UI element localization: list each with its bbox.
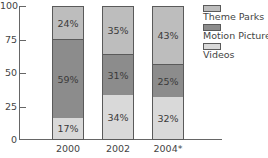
x-tick-label: 2004* <box>148 143 188 154</box>
bar-2004: 43% 25% 32% <box>152 6 184 140</box>
segment-theme-parks: 24% <box>53 7 83 39</box>
segment-videos: 34% <box>103 95 133 139</box>
y-tick-label: 0 <box>0 135 17 145</box>
legend-label: Videos <box>203 50 268 60</box>
x-tick-label: 2002 <box>98 143 138 154</box>
segment-videos: 17% <box>53 118 83 139</box>
y-tick-label: 100 <box>0 1 17 11</box>
legend-item-videos: Videos <box>203 43 268 62</box>
segment-motion-pictures: 59% <box>53 39 83 119</box>
legend: Theme Parks Motion Pictures Videos <box>203 5 268 62</box>
y-tick-label: 50 <box>0 68 17 78</box>
x-tick-label: 2000 <box>48 143 88 154</box>
y-tick-label: 25 <box>0 102 17 112</box>
bar-2000: 24% 59% 17% <box>52 6 84 140</box>
segment-videos: 32% <box>153 97 183 139</box>
segment-theme-parks: 43% <box>153 7 183 64</box>
y-tick <box>19 73 26 74</box>
y-tick <box>19 107 26 108</box>
legend-item-motion-pictures: Motion Pictures <box>203 24 268 43</box>
legend-label: Theme Parks <box>203 12 268 22</box>
y-tick-label: 75 <box>0 35 17 45</box>
segment-theme-parks: 35% <box>103 7 133 54</box>
y-tick <box>19 6 26 7</box>
legend-label: Motion Pictures <box>203 31 268 41</box>
segment-motion-pictures: 25% <box>153 64 183 98</box>
legend-item-theme-parks: Theme Parks <box>203 5 268 24</box>
bar-2002: 35% 31% 34% <box>102 6 134 140</box>
y-tick <box>19 40 26 41</box>
segment-motion-pictures: 31% <box>103 54 133 96</box>
